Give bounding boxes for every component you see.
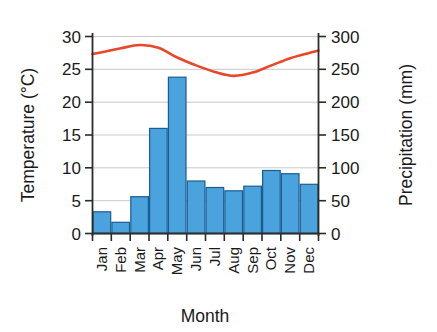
precipitation-bar-nov [281,174,299,234]
left-tick-label-0: 0 [72,225,81,244]
precipitation-bar-feb [112,222,130,233]
precipitation-bar-apr [150,128,168,233]
right-tick-label-50: 50 [331,192,350,211]
precipitation-bar-dec [300,184,318,233]
precipitation-bar-aug [225,191,243,234]
month-label-aug: Aug [225,247,242,274]
precipitation-bar-mar [131,197,149,234]
y-axis-title-right: Precipitation (mm) [396,64,416,206]
right-tick-label-300: 300 [331,28,359,47]
precipitation-bar-oct [263,171,281,234]
climograph-svg: 051015202530 050100150200250300 JanFebMa… [0,0,437,332]
precipitation-bar-may [168,77,186,233]
climograph-figure: 051015202530 050100150200250300 JanFebMa… [0,0,437,332]
month-label-mar: Mar [131,247,148,273]
month-label-sep: Sep [244,247,261,274]
month-label-may: May [168,247,185,276]
right-tick-label-150: 150 [331,126,359,145]
left-tick-label-20: 20 [62,93,81,112]
month-label-jan: Jan [93,247,110,271]
left-tick-label-15: 15 [62,126,81,145]
y-axis-title-left: Temperature (°C) [18,68,38,202]
month-label-oct: Oct [262,246,279,270]
left-tick-label-25: 25 [62,60,81,79]
precipitation-bar-jun [187,181,205,234]
month-label-dec: Dec [300,247,317,274]
month-label-apr: Apr [149,247,166,270]
right-tick-label-100: 100 [331,159,359,178]
month-label-jun: Jun [187,247,204,271]
month-label-feb: Feb [112,247,129,273]
right-tick-label-0: 0 [331,225,340,244]
precipitation-bar-jan [93,212,111,234]
precipitation-bar-sep [244,186,262,233]
right-tick-label-200: 200 [331,93,359,112]
month-label-nov: Nov [281,247,298,274]
x-axis-title: Month [181,306,230,326]
right-tick-label-250: 250 [331,60,359,79]
left-tick-label-10: 10 [62,159,81,178]
left-tick-label-5: 5 [72,192,81,211]
month-label-jul: Jul [206,247,223,266]
precipitation-bar-jul [206,188,224,234]
left-tick-label-30: 30 [62,28,81,47]
